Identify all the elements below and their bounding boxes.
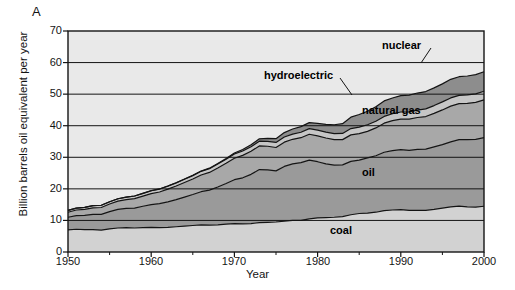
series-label-natural-gas: natural gas [362, 104, 421, 116]
stacked-area-plot [0, 0, 515, 290]
series-label-coal: coal [330, 224, 352, 236]
series-label-nuclear: nuclear [381, 39, 422, 51]
series-label-hydroelectric: hydroelectric [263, 69, 334, 81]
series-label-oil: oil [362, 166, 375, 178]
figure-panel-a: A Billion barrels oil equivalent per yea… [0, 0, 515, 290]
